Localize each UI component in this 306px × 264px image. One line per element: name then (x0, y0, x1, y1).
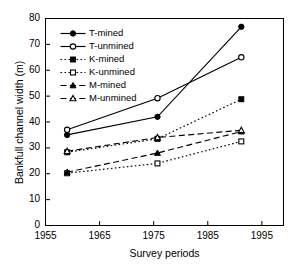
x-tick-label: 1985 (188, 230, 228, 241)
y-tick-label: 0 (20, 219, 40, 230)
y-tick-label: 60 (20, 64, 40, 75)
chart-legend: T-minedT-unminedK-minedK-unminedM-minedM… (60, 26, 137, 104)
x-tick-label: 1955 (26, 230, 66, 241)
legend-item-k-mined: K-mined (60, 52, 137, 65)
x-axis-label: Survey periods (105, 247, 225, 259)
legend-item-label: M-unmined (89, 91, 137, 104)
legend-item-label: T-mined (89, 26, 123, 39)
legend-line-sample (60, 52, 86, 65)
legend-line-sample (60, 39, 86, 52)
legend-item-label: K-mined (89, 52, 124, 65)
y-tick-label: 70 (20, 38, 40, 49)
chart-figure: Bankfull channel width (m) Survey period… (0, 0, 306, 264)
x-tick-label: 1965 (80, 230, 120, 241)
y-tick-label: 30 (20, 141, 40, 152)
y-tick-label: 20 (20, 167, 40, 178)
plot-canvas (0, 0, 306, 264)
legend-item-t-unmined: T-unmined (60, 39, 137, 52)
legend-item-label: K-unmined (89, 65, 135, 78)
legend-item-m-mined: M-mined (60, 78, 137, 91)
legend-item-t-mined: T-mined (60, 26, 137, 39)
y-tick-label: 80 (20, 12, 40, 23)
legend-item-label: M-mined (89, 78, 126, 91)
legend-item-label: T-unmined (89, 39, 134, 52)
y-tick-label: 50 (20, 90, 40, 101)
x-tick-label: 1975 (134, 230, 174, 241)
x-tick-label: 1995 (242, 230, 282, 241)
legend-line-sample (60, 65, 86, 78)
legend-item-k-unmined: K-unmined (60, 65, 137, 78)
y-tick-label: 10 (20, 193, 40, 204)
legend-line-sample (60, 26, 86, 39)
legend-item-m-unmined: M-unmined (60, 91, 137, 104)
legend-line-sample (60, 78, 86, 91)
y-tick-label: 40 (20, 116, 40, 127)
legend-line-sample (60, 91, 86, 104)
